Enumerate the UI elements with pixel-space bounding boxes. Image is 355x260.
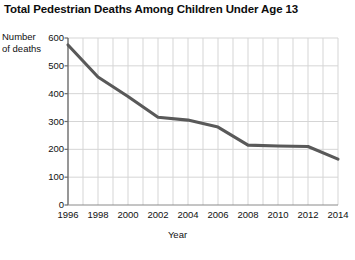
plot-svg <box>68 38 338 205</box>
x-axis-tick-label: 2012 <box>291 209 325 220</box>
x-axis-tick-label: 2006 <box>201 209 235 220</box>
x-axis-tick-label: 2008 <box>231 209 265 220</box>
x-axis-tick-label: 2000 <box>111 209 145 220</box>
x-axis-label: Year <box>0 229 355 240</box>
chart-figure: Total Pedestrian Deaths Among Children U… <box>0 0 355 260</box>
x-axis-tick-label: 2004 <box>171 209 205 220</box>
x-axis-tick-label: 2002 <box>141 209 175 220</box>
x-axis-tick-label: 1998 <box>81 209 115 220</box>
x-axis-tick-label: 1996 <box>51 209 85 220</box>
plot-area <box>68 38 338 205</box>
x-axis-tick-label: 2014 <box>321 209 355 220</box>
x-axis-tick-label: 2010 <box>261 209 295 220</box>
